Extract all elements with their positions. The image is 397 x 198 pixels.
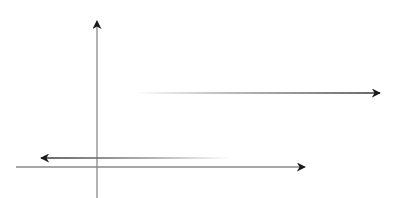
arrow-diagram (0, 0, 397, 198)
diagram-canvas (0, 0, 397, 198)
